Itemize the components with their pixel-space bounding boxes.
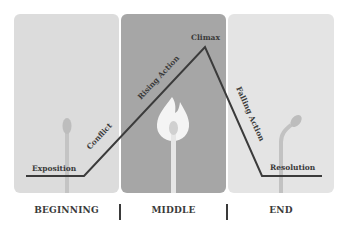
beginning-label: BEGINNING bbox=[14, 205, 119, 215]
exposition-label: Exposition bbox=[32, 164, 77, 173]
climax-label: Climax bbox=[191, 33, 220, 42]
end-label: END bbox=[228, 205, 334, 215]
middle-label: MIDDLE bbox=[121, 205, 226, 215]
diagram-canvas: Exposition Conflict Rising Action Climax… bbox=[0, 0, 346, 233]
story-arc-diagram: Exposition Conflict Rising Action Climax… bbox=[0, 0, 346, 233]
resolution-label: Resolution bbox=[270, 163, 316, 172]
